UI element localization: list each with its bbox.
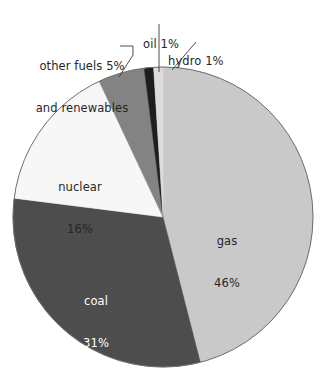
label-gas-line2: 46%	[194, 276, 260, 290]
pie-chart-figure: other fuels 5% and renewables oil 1% hyd…	[0, 0, 330, 387]
label-other-fuels-line1: other fuels 5%	[26, 59, 138, 73]
label-gas-line1: gas	[194, 234, 260, 248]
label-coal-line1: coal	[63, 294, 129, 308]
label-other-fuels: other fuels 5% and renewables	[26, 31, 138, 143]
label-hydro: hydro 1%	[168, 26, 230, 96]
label-gas: gas 46%	[194, 206, 260, 318]
label-nuclear: nuclear 16%	[36, 152, 124, 264]
label-nuclear-line2: 16%	[36, 222, 124, 236]
label-hydro-line1: hydro 1%	[168, 54, 230, 68]
label-other-fuels-line2: and renewables	[26, 101, 138, 115]
label-coal: coal 31%	[63, 266, 129, 378]
label-coal-line2: 31%	[63, 336, 129, 350]
label-nuclear-line1: nuclear	[36, 180, 124, 194]
